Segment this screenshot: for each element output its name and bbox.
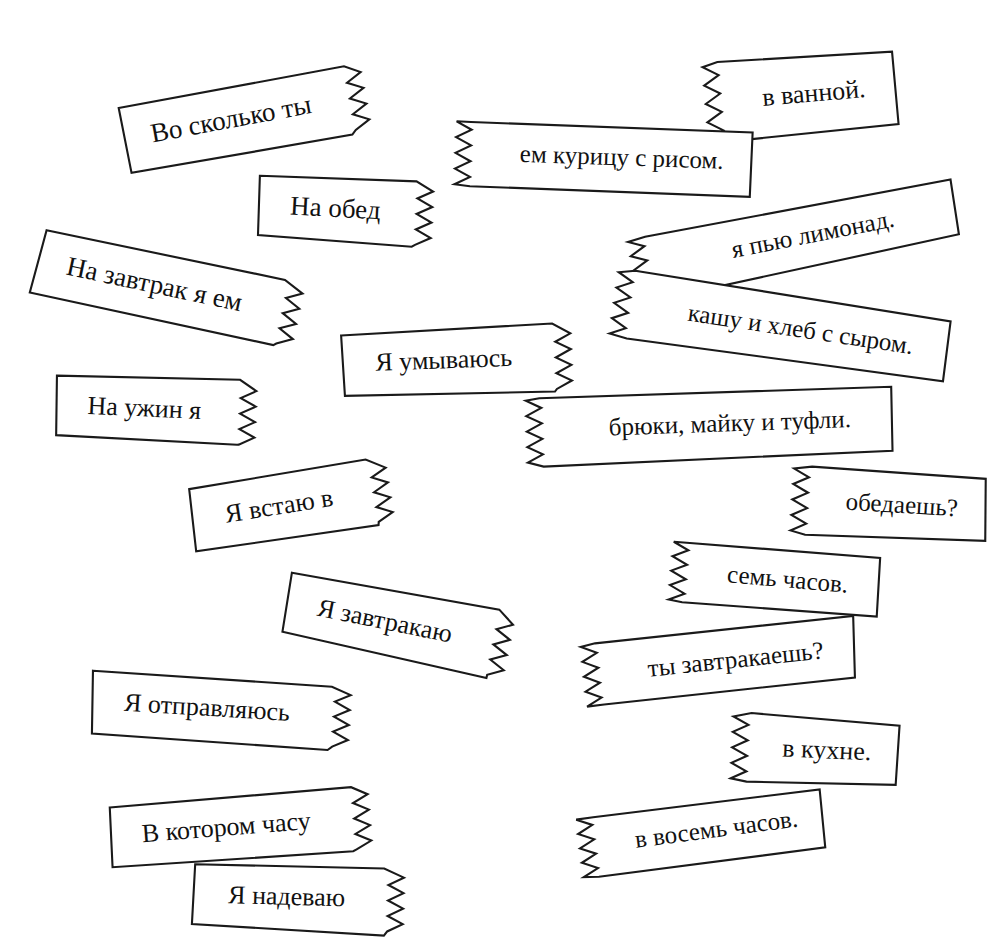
paper-strip-ya-nadevayu[interactable]: Я надеваю [178,848,412,938]
paper-strip-ya-otpravlyayus[interactable]: Я отправляюсь [74,655,359,764]
strip-text: На ужин я [87,391,202,425]
paper-strip-em-kuritsu-s-risom[interactable]: ем курицу с рисом. [445,105,770,211]
strip-text: Я умываюсь [375,343,513,377]
paper-strip-na-uzhin-ya[interactable]: На ужин я [39,358,265,462]
strip-text: Я надеваю [228,880,346,912]
strip-text: На обед [290,191,382,226]
paper-strip-ya-vstayu-v[interactable]: Я встаю в [170,443,404,569]
paper-strip-v-vosem-chasov[interactable]: в восемь часов. [565,770,844,894]
paper-strip-na-obed[interactable]: На обед [242,158,442,262]
strip-text: в кухне. [782,734,872,767]
worksheet-canvas: Во сколько тыв ванной.ем курицу с рисом.… [0,0,1004,938]
